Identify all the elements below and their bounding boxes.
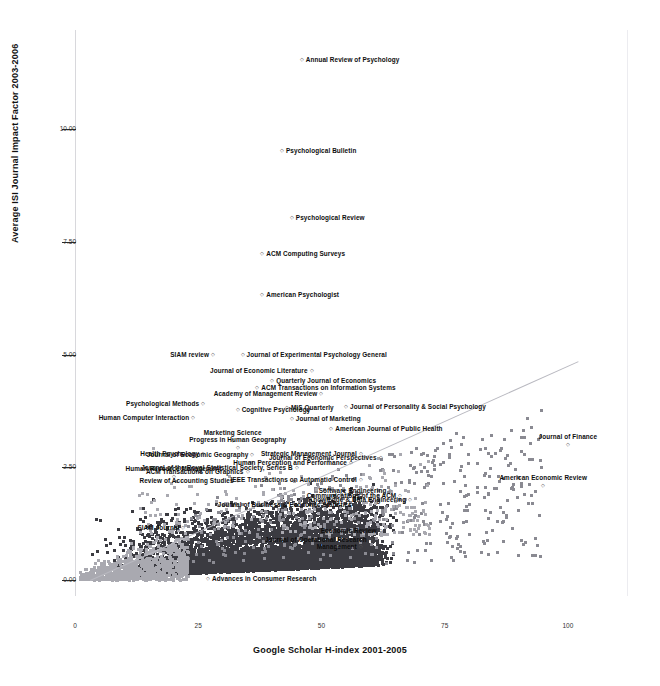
data-point — [384, 510, 387, 513]
data-point — [298, 552, 301, 555]
data-point — [520, 485, 523, 488]
data-point — [146, 493, 149, 496]
data-point — [287, 565, 290, 568]
data-point — [322, 553, 325, 556]
data-point — [103, 562, 106, 565]
data-point — [313, 508, 316, 511]
data-point — [413, 506, 416, 509]
data-point — [486, 539, 489, 542]
data-point — [246, 513, 249, 516]
data-point — [298, 519, 301, 522]
data-point — [257, 528, 260, 531]
data-point — [192, 565, 195, 568]
data-point — [223, 549, 226, 552]
data-point — [425, 542, 428, 545]
data-point — [424, 513, 427, 516]
data-point — [407, 519, 410, 522]
data-point — [381, 476, 384, 479]
data-point — [428, 533, 431, 536]
data-point-label: Quarterly Journal of Economics — [276, 377, 376, 384]
data-point — [228, 541, 231, 544]
data-point — [192, 560, 195, 563]
data-point — [333, 565, 336, 568]
data-point — [195, 564, 198, 567]
data-point — [280, 568, 283, 571]
data-point-marker — [211, 352, 215, 356]
data-point — [216, 496, 219, 499]
data-point — [139, 507, 142, 510]
data-point — [530, 494, 533, 497]
data-point — [412, 519, 415, 522]
data-point — [398, 531, 401, 534]
data-point — [123, 574, 126, 577]
data-point — [205, 550, 208, 553]
data-point — [283, 487, 286, 490]
data-point — [430, 475, 433, 478]
data-point — [209, 543, 212, 546]
data-point — [235, 509, 238, 512]
y-tick-mark — [62, 467, 76, 468]
data-point-label: MIS Quarterly — [291, 404, 334, 411]
data-point — [260, 560, 263, 563]
data-point — [224, 543, 227, 546]
data-point — [269, 521, 272, 524]
data-point — [267, 567, 270, 570]
data-point — [263, 547, 266, 550]
data-point — [149, 514, 152, 517]
data-point — [122, 540, 125, 543]
data-point — [139, 551, 142, 554]
data-point — [271, 556, 274, 559]
data-point-marker — [295, 465, 299, 469]
data-point — [207, 562, 210, 565]
data-point-marker — [349, 460, 353, 464]
data-point — [229, 565, 232, 568]
data-point-label: American Psychologist — [266, 291, 339, 298]
data-point — [350, 514, 353, 517]
data-point — [540, 409, 543, 412]
data-point — [131, 510, 134, 513]
data-point — [115, 578, 118, 581]
data-point — [205, 508, 208, 511]
data-point — [271, 488, 274, 491]
data-point — [408, 514, 411, 517]
data-point — [280, 496, 283, 499]
data-point — [390, 557, 393, 560]
data-point — [142, 520, 145, 523]
data-point — [487, 553, 490, 556]
data-point — [99, 519, 102, 522]
data-point — [381, 540, 384, 543]
data-point — [166, 494, 169, 497]
data-point — [480, 551, 483, 554]
data-point — [468, 503, 471, 506]
data-point — [306, 511, 309, 514]
data-point — [142, 542, 145, 545]
data-point — [213, 566, 216, 569]
data-point — [413, 466, 416, 469]
data-point — [198, 516, 201, 519]
data-point — [282, 518, 285, 521]
data-point — [153, 567, 156, 570]
data-point — [484, 509, 487, 512]
data-point — [132, 546, 135, 549]
data-point — [339, 552, 342, 555]
data-point-label: Economic Review — [321, 527, 377, 534]
data-point — [232, 536, 235, 539]
plot-right-border — [627, 30, 628, 596]
data-point — [186, 546, 189, 549]
data-point — [166, 513, 169, 516]
data-point — [113, 549, 116, 552]
data-point — [423, 466, 426, 469]
data-point — [157, 572, 160, 575]
data-point — [290, 515, 293, 518]
data-point — [293, 554, 296, 557]
data-point — [304, 521, 307, 524]
data-point-marker — [388, 488, 392, 492]
data-point — [115, 562, 118, 565]
data-point — [117, 528, 120, 531]
data-point — [238, 542, 241, 545]
data-point — [193, 572, 196, 575]
data-point — [433, 464, 436, 467]
data-point — [220, 532, 223, 535]
data-point — [227, 526, 230, 529]
data-point — [315, 488, 318, 491]
